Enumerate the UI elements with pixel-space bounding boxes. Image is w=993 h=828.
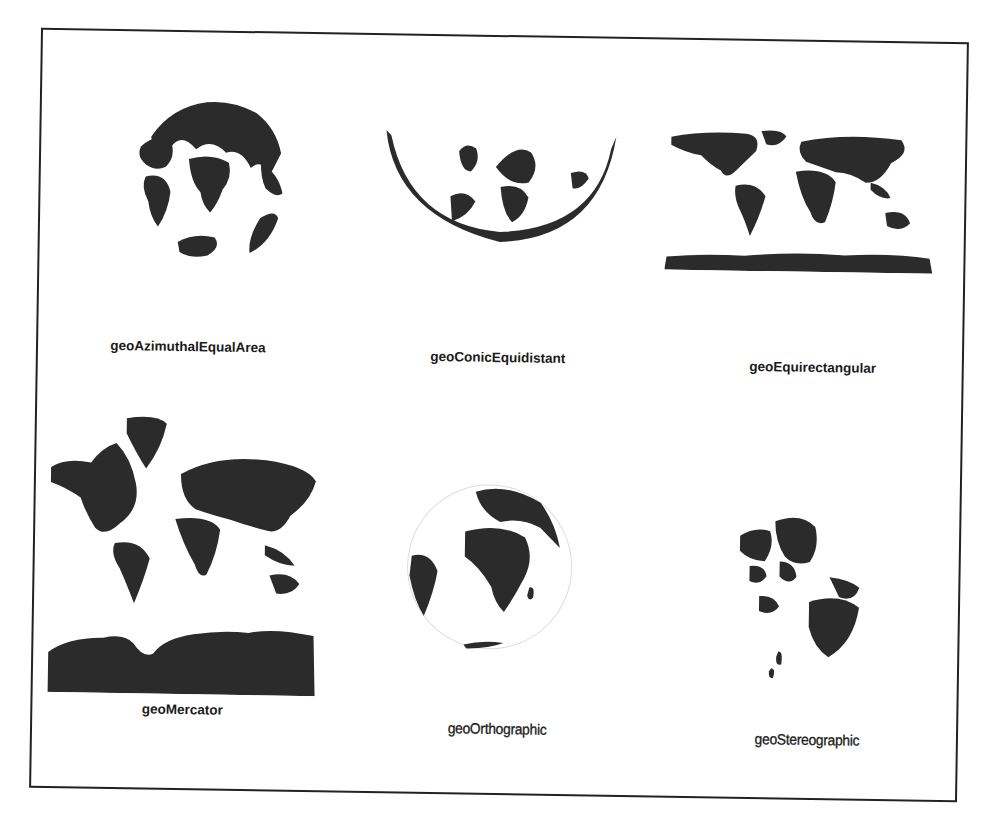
panel-stereographic: geoStereographic xyxy=(651,409,965,804)
panel-label: geoOrthographic xyxy=(448,719,547,738)
map-conic-equidistant xyxy=(379,125,621,259)
map-stereographic xyxy=(733,506,886,688)
panel-label: geoEquirectangular xyxy=(749,359,876,376)
panel-azimuthal-equal-area: geoAzimuthalEqualArea xyxy=(37,30,353,405)
panel-equirectangular: geoEquirectangular xyxy=(657,40,971,415)
panel-conic-equidistant: geoConicEquidistant xyxy=(347,35,663,410)
panel-mercator: geoMercator xyxy=(31,400,347,795)
panel-label: geoStereographic xyxy=(755,730,860,749)
panel-label: geoAzimuthalEqualArea xyxy=(110,338,265,355)
panel-label: geoMercator xyxy=(142,701,223,717)
panel-orthographic: geoOrthographic xyxy=(341,405,657,800)
map-mercator xyxy=(43,412,322,696)
figure-frame: geoAzimuthalEqualArea geoConicEquidistan… xyxy=(29,28,969,802)
map-orthographic xyxy=(398,475,581,658)
panel-label: geoConicEquidistant xyxy=(430,349,565,366)
map-azimuthal-equal-area xyxy=(109,76,312,279)
map-equirectangular xyxy=(664,125,936,274)
